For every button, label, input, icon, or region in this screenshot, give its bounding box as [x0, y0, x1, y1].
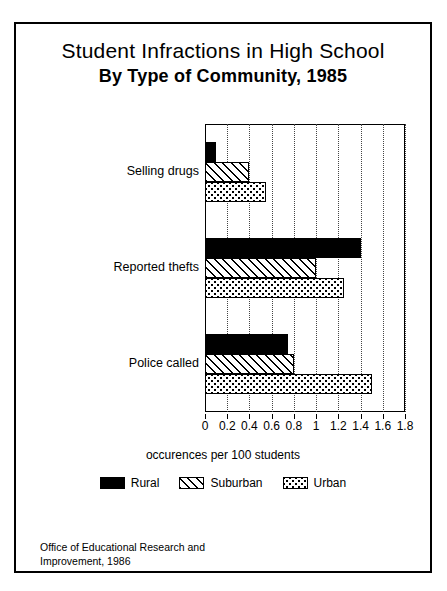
gridline	[405, 124, 406, 412]
bar-group	[205, 238, 405, 298]
category-label-selling-drugs: Selling drugs	[127, 164, 199, 178]
category-label-police-called: Police called	[129, 356, 199, 370]
legend-swatch-rural	[100, 477, 125, 489]
bar-rural-police-called	[205, 334, 288, 354]
bar-suburban-reported-thefts	[205, 258, 316, 278]
x-axis-caption: occurences per 100 students	[16, 448, 430, 462]
legend-item-rural: Rural	[100, 476, 160, 490]
bar-urban-reported-thefts	[205, 278, 344, 298]
bar-group	[205, 142, 405, 202]
bar-rural-reported-thefts	[205, 238, 361, 258]
chart-frame: Student Infractions in High School By Ty…	[14, 22, 432, 573]
legend-label-rural: Rural	[131, 476, 160, 490]
category-label-reported-thefts: Reported thefts	[114, 260, 199, 274]
bar-rural-selling-drugs	[205, 142, 216, 162]
legend-label-urban: Urban	[314, 476, 347, 490]
legend-item-urban: Urban	[283, 476, 347, 490]
bar-suburban-selling-drugs	[205, 162, 249, 182]
legend-label-suburban: Suburban	[210, 476, 262, 490]
tick-label: 1.8	[388, 419, 422, 433]
title-line-2: By Type of Community, 1985	[16, 64, 430, 88]
x-axis-ticks: 00.20.40.60.811.21.41.61.8	[205, 414, 405, 430]
legend-item-suburban: Suburban	[179, 476, 262, 490]
legend-swatch-urban	[283, 477, 308, 489]
bar-group	[205, 334, 405, 394]
chart-title: Student Infractions in High School By Ty…	[16, 38, 430, 88]
bar-suburban-police-called	[205, 354, 294, 374]
bar-urban-police-called	[205, 374, 372, 394]
legend-swatch-suburban	[179, 477, 204, 489]
source-footnote: Office of Educational Research and Impro…	[40, 540, 205, 568]
chart-page: Student Infractions in High School By Ty…	[0, 0, 447, 591]
bar-urban-selling-drugs	[205, 182, 266, 202]
plot-area	[205, 124, 405, 412]
title-line-1: Student Infractions in High School	[16, 38, 430, 64]
chart-legend: RuralSuburbanUrban	[16, 476, 430, 490]
category-axis-labels: Selling drugsReported theftsPolice calle…	[16, 124, 199, 412]
bar-groups	[205, 124, 405, 412]
